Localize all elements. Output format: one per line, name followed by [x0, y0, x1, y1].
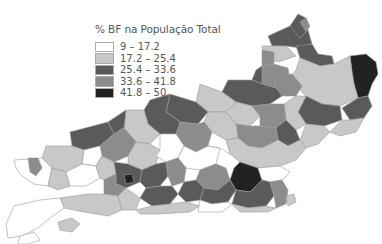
municipality[interactable]: [140, 186, 178, 206]
legend-swatch-medium-gray: [95, 76, 114, 87]
municipality[interactable]: [300, 124, 330, 148]
legend-swatch-black: [95, 88, 114, 99]
municipality[interactable]: [58, 218, 80, 232]
legend-item: 9 – 17.2: [95, 41, 221, 53]
legend-item: 33.6 – 41.8: [95, 76, 221, 88]
legend-item: 41.8 – 50: [95, 87, 221, 99]
legend-label: 25.4 – 33.6: [120, 64, 176, 75]
municipality[interactable]: [60, 194, 122, 216]
municipality[interactable]: [286, 194, 296, 206]
legend-label: 17.2 – 25.4: [120, 53, 176, 64]
legend-swatch-light-gray: [95, 53, 114, 64]
municipality[interactable]: [6, 198, 64, 238]
legend-item: 17.2 – 25.4: [95, 53, 221, 65]
legend-swatch-dark-gray: [95, 65, 114, 76]
legend-label: 33.6 – 41.8: [120, 76, 176, 87]
legend-label: 9 – 17.2: [120, 41, 160, 52]
legend-title: % BF na População Total: [95, 23, 221, 35]
municipality[interactable]: [258, 166, 290, 182]
municipality[interactable]: [124, 174, 134, 184]
legend-label: 41.8 – 50: [120, 87, 166, 98]
legend-swatch-white: [95, 42, 114, 53]
map-legend: % BF na População Total 9 – 17.2 17.2 – …: [95, 23, 221, 99]
legend-item: 25.4 – 33.6: [95, 64, 221, 76]
municipality[interactable]: [262, 50, 274, 66]
